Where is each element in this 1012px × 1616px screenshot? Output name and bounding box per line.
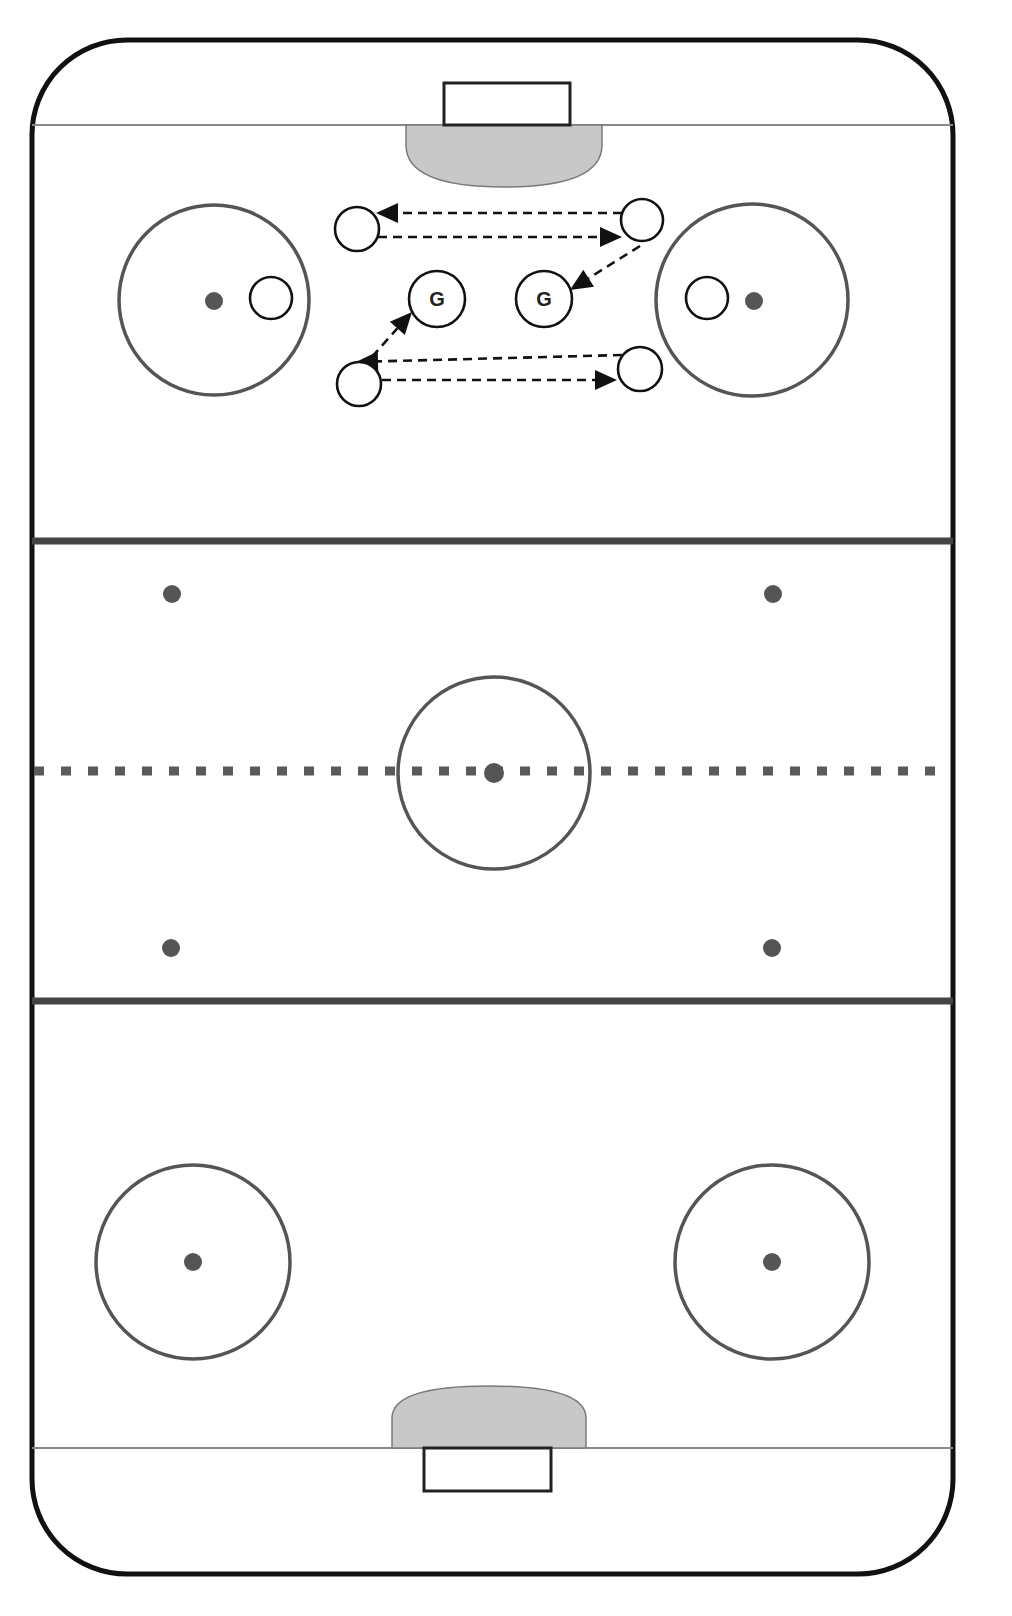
hockey-rink-diagram: GG [0, 0, 1012, 1616]
faceoff-dot-bottom-left [184, 1253, 202, 1271]
player-p3 [335, 207, 379, 251]
player-p4 [621, 199, 663, 241]
player-p5 [337, 362, 381, 406]
rink-boards-outline [32, 40, 953, 1574]
faceoff-dot-center [484, 763, 504, 783]
bottom-goal-net [424, 1448, 551, 1491]
player-p1 [250, 277, 292, 319]
goalie-label: G [536, 288, 552, 310]
faceoff-dot-top-right [745, 292, 763, 310]
neutral-zone-dot-3 [162, 939, 180, 957]
goalie-label: G [429, 288, 445, 310]
neutral-zone-dot-2 [764, 585, 782, 603]
top-goal-net [444, 83, 570, 125]
neutral-zone-dot-1 [163, 585, 181, 603]
faceoff-dot-bottom-right [763, 1253, 781, 1271]
goalie-g1: G [409, 271, 465, 327]
player-p6 [618, 347, 662, 391]
rink-boards [32, 40, 953, 1574]
player-p2 [686, 277, 728, 319]
top-goal-crease [406, 125, 602, 187]
bottom-goal-crease [392, 1386, 586, 1448]
goalie-g2: G [516, 271, 572, 327]
neutral-zone-dot-4 [763, 939, 781, 957]
faceoff-dot-top-left [205, 292, 223, 310]
